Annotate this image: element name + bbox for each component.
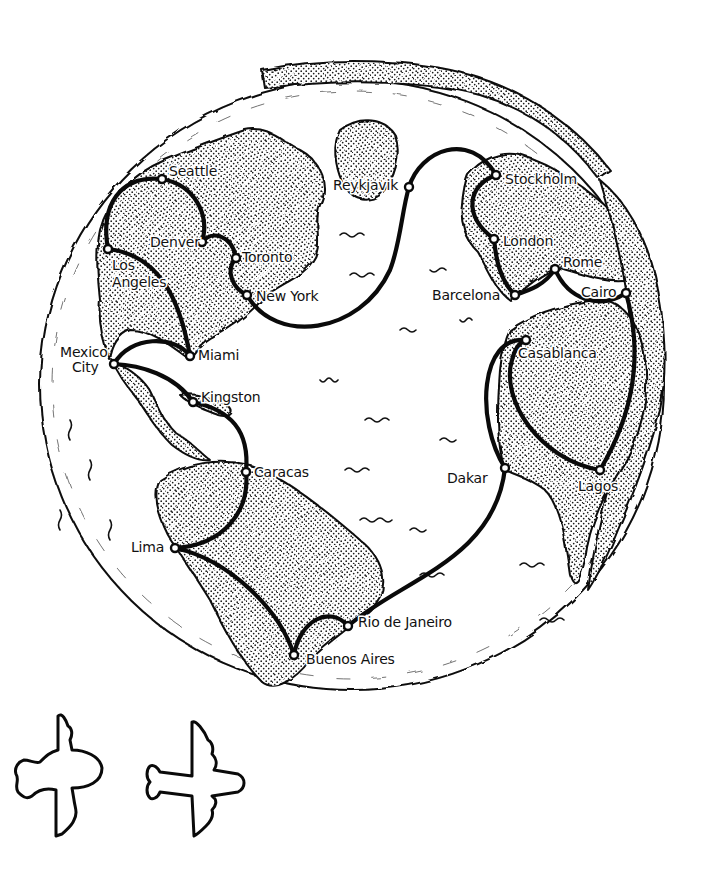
city-node-miami[interactable] xyxy=(186,352,194,360)
label-miami: Miami xyxy=(198,347,239,363)
city-node-new-york[interactable] xyxy=(243,291,251,299)
label-cairo: Cairo xyxy=(581,284,616,300)
long-airliner-icon xyxy=(147,722,244,836)
city-node-rio-de-janeiro[interactable] xyxy=(344,622,352,630)
label-seattle: Seattle xyxy=(169,163,217,179)
city-node-barcelona[interactable] xyxy=(511,291,519,299)
label-caracas: Caracas xyxy=(254,464,309,480)
city-node-casablanca[interactable] xyxy=(522,336,530,344)
label-los-angeles-1: Los xyxy=(112,257,135,273)
label-los-angeles-2: Angeles xyxy=(112,274,166,290)
city-node-lagos[interactable] xyxy=(596,466,604,474)
label-denver: Denver xyxy=(150,234,200,250)
label-buenos-aires: Buenos Aires xyxy=(306,651,395,667)
label-toronto: Toronto xyxy=(241,249,292,265)
city-node-dakar[interactable] xyxy=(501,464,509,472)
globe-route-map: Seattle Denver Toronto New York Los Ange… xyxy=(0,0,705,877)
city-node-rome[interactable] xyxy=(551,265,559,273)
label-lagos: Lagos xyxy=(578,478,618,494)
land-masses xyxy=(97,61,664,686)
label-barcelona: Barcelona xyxy=(432,287,500,303)
label-casablanca: Casablanca xyxy=(518,345,597,361)
label-kingston: Kingston xyxy=(201,389,260,405)
label-stockholm: Stockholm xyxy=(505,171,577,187)
city-node-caracas[interactable] xyxy=(242,468,250,476)
city-node-london[interactable] xyxy=(490,235,498,243)
label-reykjavik: Reykjavik xyxy=(333,177,399,193)
label-london: London xyxy=(503,233,553,249)
city-node-mexico-city[interactable] xyxy=(110,360,118,368)
city-node-reykjavik[interactable] xyxy=(405,183,413,191)
city-node-kingston[interactable] xyxy=(189,398,197,406)
label-rio-de-janeiro: Rio de Janeiro xyxy=(358,614,452,630)
city-node-stockholm[interactable] xyxy=(492,171,500,179)
city-node-toronto[interactable] xyxy=(232,254,240,262)
label-mexico-city-1: Mexico xyxy=(60,344,108,360)
city-node-los-angeles[interactable] xyxy=(104,245,112,253)
city-node-lima[interactable] xyxy=(171,544,179,552)
city-node-cairo[interactable] xyxy=(622,289,630,297)
small-propeller-plane-icon xyxy=(15,715,102,836)
label-rome: Rome xyxy=(563,254,602,270)
label-mexico-city-2: City xyxy=(72,359,99,375)
city-node-buenos-aires[interactable] xyxy=(290,651,298,659)
city-node-seattle[interactable] xyxy=(158,175,166,183)
label-new-york: New York xyxy=(256,288,320,304)
label-dakar: Dakar xyxy=(447,470,488,486)
label-lima: Lima xyxy=(131,539,164,555)
